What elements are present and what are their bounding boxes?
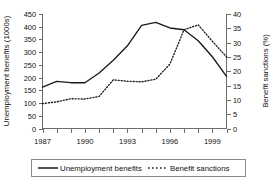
left-tick-label: 350 <box>24 35 36 44</box>
chart-container: 050100150200250300350400450 051015202530… <box>0 0 277 184</box>
right-tick-label: 40 <box>233 10 241 19</box>
right-tick-label: 15 <box>233 82 241 91</box>
x-tick-label: 1990 <box>77 137 94 146</box>
left-tick-label: 250 <box>24 61 36 70</box>
left-tick-label: 0 <box>32 125 36 134</box>
right-tick-label: 30 <box>233 39 241 48</box>
right-tick-label: 25 <box>233 53 241 62</box>
left-tick-label: 100 <box>24 99 36 108</box>
legend-label-unemployment-benefits: Unemployment benefits <box>60 164 142 173</box>
left-tick-label: 50 <box>28 112 36 121</box>
right-tick-label: 20 <box>233 67 241 76</box>
left-axis-title: Unemployment benefits (1000s) <box>2 15 11 126</box>
right-tick-label: 35 <box>233 24 241 33</box>
x-tick-label: 1999 <box>204 137 221 146</box>
right-tick-label: 10 <box>233 96 241 105</box>
left-tick-label: 200 <box>24 74 36 83</box>
right-axis-title: Benefit sanctions (%) <box>261 34 270 108</box>
line-chart: 050100150200250300350400450 051015202530… <box>0 0 277 184</box>
left-tick-label: 450 <box>24 10 36 19</box>
left-tick-label: 150 <box>24 86 36 95</box>
left-tick-label: 300 <box>24 48 36 57</box>
x-tick-label: 1993 <box>119 137 136 146</box>
x-tick-label: 1987 <box>34 137 51 146</box>
right-tick-label: 0 <box>233 125 237 134</box>
legend-label-benefit-sanctions: Benefit sanctions <box>170 164 229 173</box>
left-tick-label: 400 <box>24 23 36 32</box>
right-tick-label: 5 <box>233 110 237 119</box>
x-tick-label: 1996 <box>161 137 178 146</box>
